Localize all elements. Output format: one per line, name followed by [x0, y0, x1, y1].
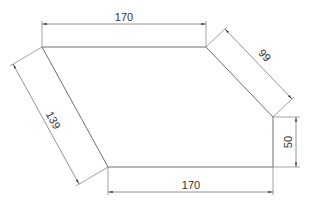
- dimension-upper-right: 99: [206, 27, 294, 117]
- dimension-top-label: 170: [115, 11, 133, 23]
- dimension-bottom: 170: [108, 167, 273, 195]
- dimension-right: 50: [273, 117, 300, 167]
- dimension-left-label: 139: [44, 109, 63, 131]
- dimension-left: 139: [10, 47, 108, 186]
- dimension-bottom-label: 170: [182, 179, 200, 191]
- dimension-upper-right-label: 99: [256, 47, 273, 64]
- dimension-top: 170: [42, 11, 206, 47]
- drawing-canvas: 170 99 50 170 139: [0, 0, 317, 206]
- dimension-right-label: 50: [282, 136, 294, 148]
- part-outline: [42, 47, 273, 167]
